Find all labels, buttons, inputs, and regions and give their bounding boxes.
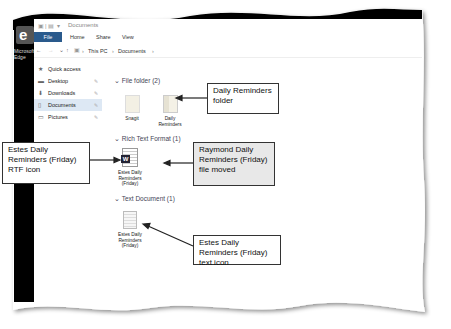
- edge-desktop-icon[interactable]: e: [16, 26, 34, 44]
- tab-file[interactable]: File: [34, 32, 62, 42]
- pictures-icon: ▭: [38, 111, 44, 123]
- group-header-label: Text Document (1): [122, 195, 175, 202]
- text-document-icon: [123, 211, 137, 229]
- edge-logo-icon: e: [19, 26, 27, 43]
- file-label: Snagit: [125, 116, 139, 121]
- word-logo-icon: W: [121, 155, 130, 163]
- desktop-icon: ▬: [38, 75, 44, 87]
- star-icon: ★: [38, 63, 43, 75]
- ribbon-tabs: File Home Share View: [34, 32, 422, 42]
- breadcrumb-separator: ›: [82, 48, 84, 54]
- sidebar-item-quick-access[interactable]: ★ Quick access: [34, 63, 102, 75]
- file-item-estes-txt[interactable]: Estes Daily Reminders (Friday): [114, 211, 146, 249]
- group-header-file-folder[interactable]: ⌄ File folder (2): [114, 77, 160, 85]
- sidebar-item-label: Documents: [48, 102, 76, 108]
- back-arrow-icon[interactable]: ←: [36, 47, 42, 53]
- breadcrumb-separator: ›: [112, 48, 114, 54]
- up-arrow-icon[interactable]: ↑: [66, 47, 69, 53]
- window-title: Documents: [68, 22, 98, 28]
- folder-icon: [125, 95, 140, 113]
- file-label: Estes Daily Reminders (Friday): [118, 232, 142, 248]
- desktop-icon-label: Microsoft Edge: [14, 48, 34, 60]
- file-item-estes-rtf[interactable]: W Estes Daily Reminders (Friday): [114, 148, 146, 187]
- recent-chevron-icon[interactable]: ⌄: [59, 47, 64, 53]
- callout-rtf-icon: Estes Daily Reminders (Friday) RTF icon: [2, 142, 90, 184]
- group-header-label: Rich Text Format (1): [122, 135, 181, 142]
- sidebar-item-pictures[interactable]: ▭ Pictures ✎: [34, 111, 102, 123]
- callout-file-moved: Raymond Daily Reminders (Friday) file mo…: [193, 142, 275, 186]
- title-bar: ▣|▤ ▾ Documents: [34, 19, 422, 31]
- file-label: Daily Reminders: [158, 116, 181, 127]
- sidebar-item-desktop[interactable]: ▬ Desktop ✎: [34, 75, 102, 87]
- pin-icon: ✎: [94, 75, 98, 87]
- address-bar: ← → ⌄ ↑ ▣ › This PC › Documents ›: [34, 45, 422, 58]
- group-header-rich-text-format[interactable]: ⌄ Rich Text Format (1): [114, 135, 181, 143]
- folder-item-snagit[interactable]: Snagit: [116, 95, 148, 122]
- sidebar-item-label: Pictures: [48, 114, 68, 120]
- sidebar-item-label: Desktop: [48, 78, 68, 84]
- location-icon: ▣: [74, 47, 80, 53]
- sidebar-item-label: Quick access: [48, 66, 81, 72]
- breadcrumb-this-pc[interactable]: This PC: [88, 48, 108, 54]
- pin-icon: ✎: [94, 99, 98, 111]
- forward-arrow-icon[interactable]: →: [48, 47, 54, 53]
- download-icon: ⬇: [38, 87, 43, 99]
- file-label: Estes Daily Reminders (Friday): [118, 170, 142, 186]
- tab-view[interactable]: View: [122, 34, 134, 40]
- rtf-document-icon: W: [122, 148, 138, 167]
- tab-home[interactable]: Home: [70, 34, 85, 40]
- folder-icon: [163, 95, 178, 113]
- tab-share[interactable]: Share: [96, 34, 111, 40]
- breadcrumb-separator: ›: [152, 48, 154, 54]
- sidebar-item-documents[interactable]: ▯ Documents ✎: [34, 99, 102, 111]
- breadcrumb-documents[interactable]: Documents: [118, 48, 146, 54]
- group-header-text-document[interactable]: ⌄ Text Document (1): [114, 195, 175, 203]
- sidebar-item-label: Downloads: [48, 90, 75, 96]
- documents-icon: ▯: [38, 99, 41, 111]
- pin-icon: ✎: [94, 87, 98, 99]
- sidebar-item-downloads[interactable]: ⬇ Downloads ✎: [34, 87, 102, 99]
- callout-daily-reminders-folder: Daily Reminders folder: [207, 83, 279, 114]
- quick-access-toolbar-icons[interactable]: ▣|▤ ▾: [38, 22, 61, 29]
- group-header-label: File folder (2): [122, 77, 160, 84]
- folder-item-daily-reminders[interactable]: Daily Reminders: [154, 95, 186, 127]
- pin-icon: ✎: [94, 111, 98, 123]
- callout-text-icon: Estes Daily Reminders (Friday) text icon: [193, 235, 281, 265]
